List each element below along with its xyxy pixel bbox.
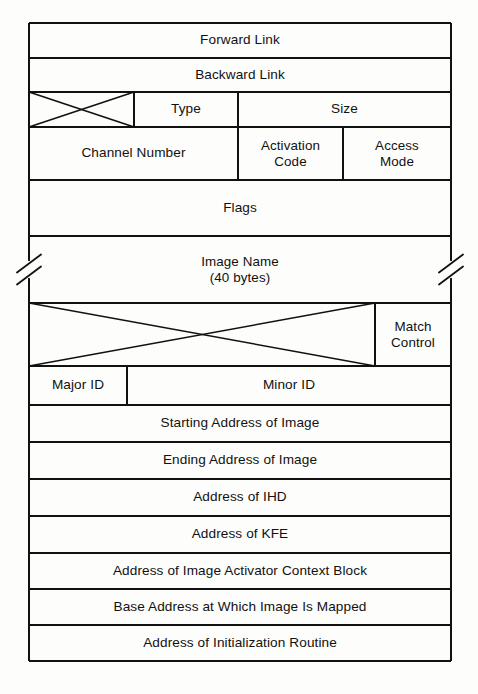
- diagram-break-marks: [17, 255, 463, 285]
- structure-diagram-page: Forward LinkBackward LinkTypeSizeChannel…: [0, 0, 478, 694]
- diagram-cross-marks: [29, 92, 375, 366]
- diagram-canvas: [0, 0, 478, 694]
